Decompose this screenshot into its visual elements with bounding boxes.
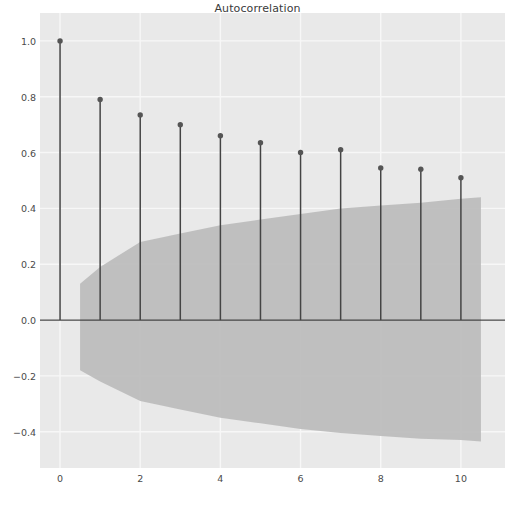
- x-axis-tick-label: 4: [217, 473, 223, 484]
- x-axis-tick-labels: 0246810: [0, 0, 515, 506]
- x-axis-tick-label: 0: [57, 473, 63, 484]
- autocorrelation-figure: Autocorrelation 1.00.80.60.40.20.0−0.2−0…: [0, 0, 515, 506]
- x-axis-tick-label: 8: [378, 473, 384, 484]
- x-axis-tick-label: 6: [298, 473, 304, 484]
- x-axis-tick-label: 10: [455, 473, 467, 484]
- x-axis-tick-label: 2: [137, 473, 143, 484]
